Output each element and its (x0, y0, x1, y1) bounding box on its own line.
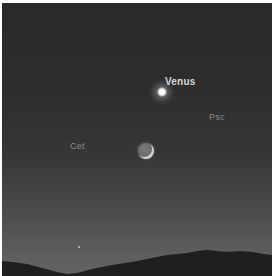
night-sky: Venus Psc Cet (2, 3, 272, 276)
venus-planet (157, 87, 167, 97)
venus-label: Venus (165, 76, 195, 87)
mountain-silhouette (2, 236, 272, 276)
pisces-label: Psc (209, 112, 225, 122)
crescent-moon (138, 143, 154, 159)
cetus-label: Cet (70, 141, 85, 151)
